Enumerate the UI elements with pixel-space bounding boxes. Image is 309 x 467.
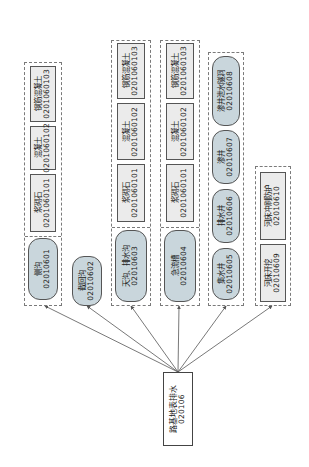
node-code: 0201060102 (131, 107, 139, 157)
node-code: 0201060103 (131, 46, 139, 96)
node-seepage-tunnel[interactable]: 渗井泄水隧洞02010608 (212, 56, 240, 126)
node-code: 02010607 (226, 137, 234, 177)
link-g2 (87, 306, 178, 372)
node-code: 0201060103 (180, 46, 188, 96)
group-divider (112, 227, 150, 228)
group-divider (25, 236, 61, 237)
node-code: 02010604 (180, 246, 188, 286)
node-code: 0201060101 (180, 168, 188, 218)
node-collection-well[interactable]: 集水井02010605 (212, 248, 240, 300)
node-concrete[interactable]: 混凝土0201060102 (166, 103, 194, 160)
node-code: 02010610 (273, 185, 281, 227)
node-code: 02010608 (226, 70, 234, 112)
node-gutter-drain[interactable]: 天沟、排水沟02010603 (115, 230, 147, 302)
node-code: 0201060102 (180, 107, 188, 157)
node-code: 0201060101 (43, 178, 51, 228)
node-riverbed-excavation[interactable]: 河床开挖02010609 (260, 244, 286, 302)
node-code: 020106 (178, 385, 186, 433)
node-masonry[interactable]: 浆砌石0201060101 (30, 174, 56, 232)
node-masonry[interactable]: 浆砌石0201060101 (117, 164, 145, 222)
node-intercept-ditch[interactable]: 截回沟02010602 (72, 256, 102, 306)
node-code: 02010603 (131, 245, 139, 287)
node-code: 02010601 (43, 249, 51, 289)
node-riverbed-scour-protection[interactable]: 河床冲刷防护02010610 (260, 172, 286, 240)
node-reinforced-concrete[interactable]: 钢筋混凝土0201060103 (117, 43, 145, 99)
node-code: 02010602 (87, 261, 95, 301)
node-code: 0201060103 (43, 69, 51, 119)
node-reinforced-concrete[interactable]: 钢筋混凝土0201060103 (30, 66, 56, 122)
group-divider (161, 227, 199, 228)
node-chute[interactable]: 急流槽02010604 (164, 230, 196, 302)
node-root-subgrade-surface-drainage[interactable]: 路基地表排水020106 (163, 372, 193, 446)
link-g6 (178, 306, 272, 372)
link-g5 (178, 306, 226, 372)
node-code: 0201060101 (131, 168, 139, 218)
diagram-canvas: 侧沟02010601 浆砌石0201060101 混凝土0201060102 钢… (0, 0, 309, 467)
node-masonry[interactable]: 浆砌石0201060101 (166, 164, 194, 222)
node-code: 02010605 (226, 254, 234, 294)
node-code: 02010609 (273, 253, 281, 293)
node-side-ditch[interactable]: 侧沟02010601 (28, 238, 58, 300)
node-seepage-well[interactable]: 渗井02010607 (212, 130, 240, 184)
node-concrete[interactable]: 混凝土0201060102 (30, 126, 56, 170)
node-code: 0201060102 (43, 123, 51, 173)
node-concrete[interactable]: 混凝土0201060102 (117, 103, 145, 160)
link-g1 (45, 306, 178, 372)
node-drainage-well[interactable]: 排水井02010606 (212, 189, 240, 243)
node-reinforced-concrete[interactable]: 钢筋混凝土0201060103 (166, 43, 194, 99)
node-code: 02010606 (226, 196, 234, 236)
link-g3 (131, 306, 178, 372)
link-g4 (178, 306, 179, 372)
